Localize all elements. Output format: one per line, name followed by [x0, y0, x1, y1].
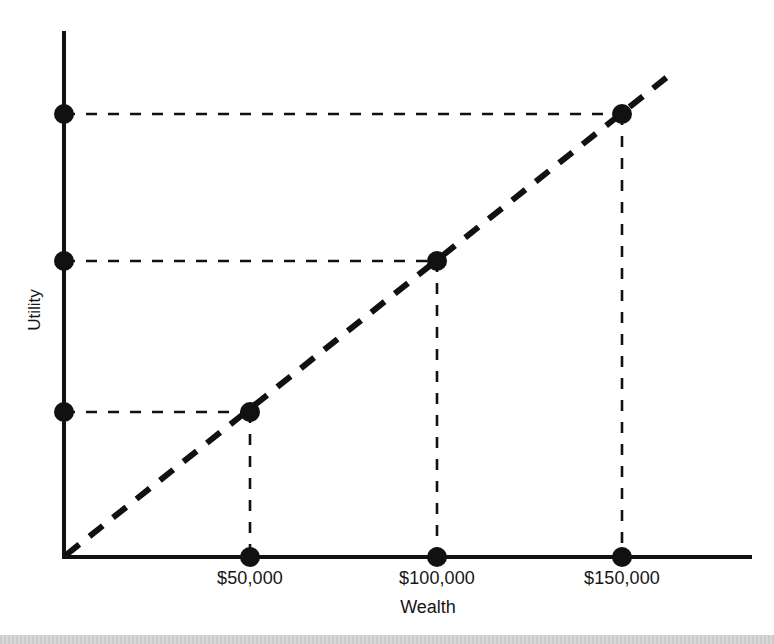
x-axis-marker-150000	[612, 547, 632, 567]
data-point-150000	[612, 104, 632, 124]
y-axis-title: Utility	[25, 289, 44, 331]
data-point-100000	[427, 251, 447, 271]
vertical-guide-lines	[250, 114, 622, 557]
footer-gray-band	[0, 635, 774, 644]
x-axis-tick-labels: $50,000 $100,000 $150,000	[217, 568, 660, 588]
data-point-50000	[240, 402, 260, 422]
horizontal-guide-lines	[64, 114, 622, 412]
y-axis-marker-u150000	[54, 104, 74, 124]
x-tick-label-100000: $100,000	[399, 568, 475, 588]
x-tick-label-50000: $50,000	[217, 568, 283, 588]
x-axis-marker-100000	[427, 547, 447, 567]
x-axis-title: Wealth	[400, 597, 456, 617]
utility-function-line	[66, 70, 676, 555]
utility-wealth-chart: $50,000 $100,000 $150,000 Wealth Utility	[0, 0, 774, 644]
x-axis-marker-50000	[240, 547, 260, 567]
figure-root: $50,000 $100,000 $150,000 Wealth Utility	[0, 0, 774, 644]
utility-curve-segment	[66, 70, 676, 555]
x-tick-label-150000: $150,000	[584, 568, 660, 588]
y-axis-marker-u50000	[54, 402, 74, 422]
y-axis-marker-u100000	[54, 251, 74, 271]
